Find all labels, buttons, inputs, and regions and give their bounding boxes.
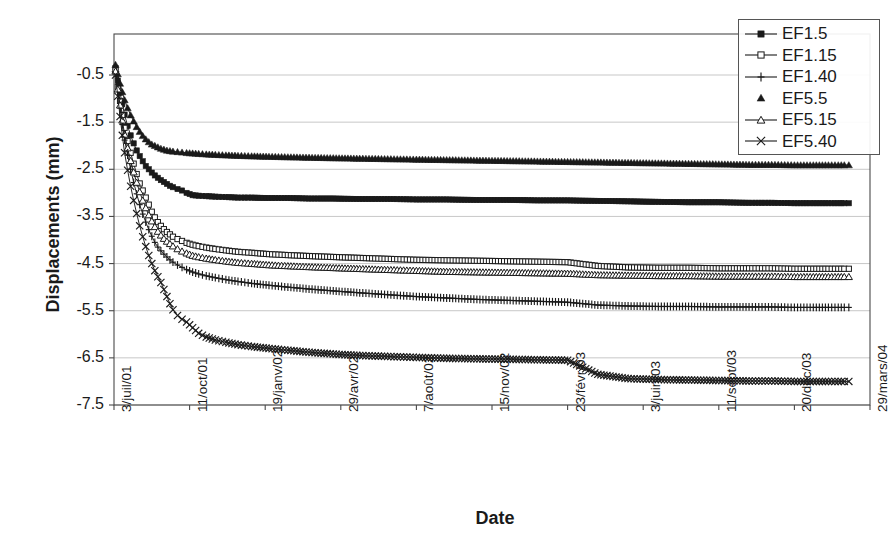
legend-item-ef5-5[interactable]: EF5.5: [739, 88, 879, 110]
x-axis-title: Date: [395, 508, 595, 529]
marker-filled-square: [758, 31, 764, 37]
legend-marker-filled-triangle-icon: [744, 91, 778, 105]
y-tick-label: -1.5: [40, 112, 104, 130]
marker-filled-square: [846, 201, 851, 206]
legend-item-ef1-40[interactable]: EF1.40: [739, 66, 879, 88]
x-tick-label: 23/févr/03: [573, 352, 588, 412]
x-tick-label: 7/août/02: [421, 356, 436, 412]
chart-legend: EF1.5EF1.15EF1.40EF5.5EF5.15EF5.40: [738, 19, 880, 155]
x-tick-label: 3/juin/03: [648, 361, 663, 412]
x-tick-label: 3/juil/01: [119, 365, 134, 412]
marker-filled-triangle: [757, 95, 765, 102]
legend-label: EF1.5: [782, 25, 827, 42]
marker-cross: [163, 293, 170, 300]
legend-marker-cross-icon: [744, 134, 778, 148]
y-tick-label: -4.5: [40, 254, 104, 272]
marker-open-square: [758, 52, 764, 58]
marker-plus: [190, 268, 196, 276]
x-tick-label: 15/nov/02: [497, 353, 512, 412]
marker-plus: [203, 272, 209, 280]
marker-cross: [136, 222, 143, 229]
marker-filled-triangle: [112, 61, 119, 67]
marker-filled-square: [128, 133, 133, 138]
marker-plus: [206, 273, 212, 281]
x-tick-label: 20/déc/03: [799, 353, 814, 412]
marker-plus: [216, 274, 222, 282]
marker-plus: [196, 270, 202, 278]
marker-filled-square: [131, 141, 136, 146]
legend-marker-open-square-icon: [744, 48, 778, 62]
marker-cross: [139, 233, 146, 240]
legend-label: EF5.40: [782, 133, 837, 150]
y-tick-label: -7.5: [40, 395, 104, 413]
legend-label: EF1.40: [782, 68, 837, 85]
marker-plus: [846, 304, 852, 312]
marker-plus: [758, 72, 765, 81]
y-tick-label: -6.5: [40, 348, 104, 366]
y-tick-label: -3.5: [40, 206, 104, 224]
legend-item-ef1-15[interactable]: EF1.15: [739, 45, 879, 67]
marker-plus: [212, 274, 218, 282]
marker-plus: [209, 273, 215, 281]
legend-marker-plus-icon: [744, 70, 778, 84]
marker-plus: [149, 232, 155, 240]
marker-filled-square: [134, 148, 139, 153]
marker-plus: [143, 218, 149, 226]
legend-item-ef5-40[interactable]: EF5.40: [739, 131, 879, 153]
x-tick-label: 29/avr/02: [346, 356, 361, 412]
marker-filled-triangle: [127, 112, 134, 118]
y-tick-label: -2.5: [40, 159, 104, 177]
x-tick-label: 11/oct/01: [195, 357, 210, 412]
marker-plus: [199, 271, 205, 279]
legend-label: EF5.15: [782, 111, 837, 128]
marker-plus: [193, 269, 199, 277]
marker-cross: [145, 252, 152, 259]
legend-item-ef1-5[interactable]: EF1.5: [739, 23, 879, 45]
chart-figure: Displacements (mm) Date -0.5-1.5-2.5-3.5…: [0, 0, 896, 555]
marker-cross: [142, 243, 149, 250]
marker-cross: [160, 286, 167, 293]
legend-marker-open-triangle-icon: [744, 113, 778, 127]
marker-plus: [219, 275, 225, 283]
legend-label: EF1.15: [782, 47, 837, 64]
y-tick-label: -5.5: [40, 301, 104, 319]
x-tick-label: 19/janv/02: [270, 350, 285, 412]
legend-item-ef5-15[interactable]: EF5.15: [739, 109, 879, 131]
marker-plus: [187, 267, 193, 275]
legend-marker-filled-square-icon: [744, 27, 778, 41]
x-tick-label: 11/sept/03: [724, 350, 739, 412]
marker-filled-triangle: [130, 118, 137, 124]
marker-cross: [130, 197, 137, 204]
legend-label: EF5.5: [782, 90, 827, 107]
marker-filled-square: [137, 153, 142, 158]
marker-open-square: [846, 266, 851, 271]
y-tick-label: -0.5: [40, 65, 104, 83]
x-tick-label: 29/mars/04: [875, 344, 890, 412]
